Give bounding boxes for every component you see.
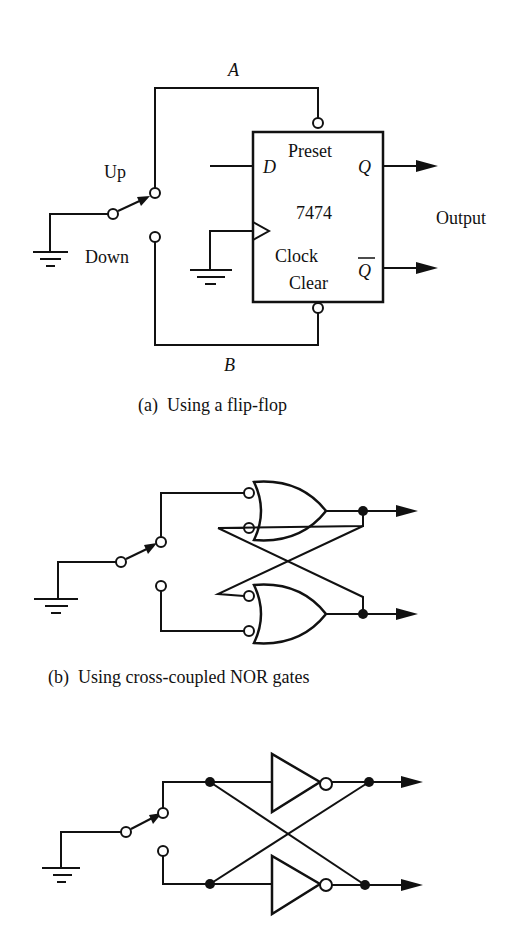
node-b-label: B	[224, 355, 235, 375]
ground-icon	[33, 252, 68, 266]
debounce-circuits-figure: A B Up Down Preset D Q 7474 Clock Clear …	[0, 0, 523, 929]
switch-up-label: Up	[104, 162, 126, 182]
preset-pin-label: Preset	[288, 141, 332, 161]
inverter-top	[272, 754, 320, 812]
spdt-switch	[116, 537, 166, 591]
ground-icon	[190, 270, 232, 284]
chip-number-label: 7474	[296, 203, 332, 223]
spdt-switch	[108, 188, 160, 242]
nor-gate-bottom	[254, 585, 326, 644]
spdt-switch	[121, 808, 168, 856]
clear-pin-label: Clear	[289, 273, 328, 293]
inverter-latch-circuit	[42, 754, 423, 914]
clock-pin-label: Clock	[275, 246, 318, 266]
node-a-label: A	[227, 60, 240, 80]
inverter-bottom	[272, 856, 320, 914]
qbar-pin-label: Q	[358, 261, 371, 281]
q-pin-label: Q	[358, 157, 371, 177]
d-pin-label: D	[262, 157, 276, 177]
nor-gate-top	[254, 482, 326, 541]
ground-icon	[42, 868, 80, 882]
ground-icon	[34, 599, 78, 613]
output-label: Output	[436, 208, 486, 228]
flip-flop-circuit: A B Up Down Preset D Q 7474 Clock Clear …	[33, 60, 486, 375]
switch-down-label: Down	[85, 247, 129, 267]
caption-b: (b) Using cross-coupled NOR gates	[48, 667, 309, 688]
nor-latch-circuit	[34, 482, 418, 644]
caption-a: (a) Using a flip-flop	[138, 395, 287, 416]
